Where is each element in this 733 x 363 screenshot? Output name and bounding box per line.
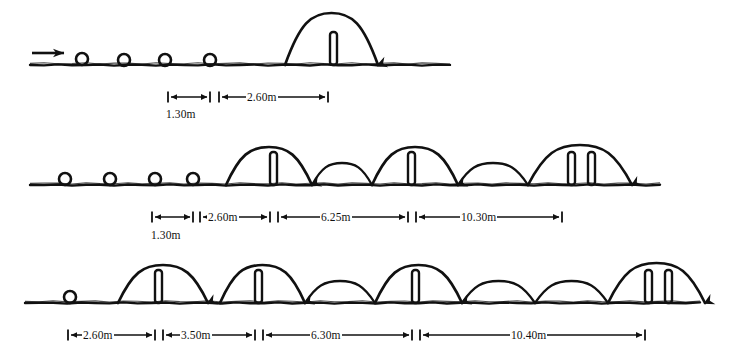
hurdle-icon: [255, 270, 262, 303]
hurdle-icon: [155, 270, 162, 303]
hurdle-icon: [412, 270, 419, 303]
hop-arc: [312, 163, 372, 185]
dimension-label: 2.60m: [207, 211, 239, 223]
double-hurdle-clearance-arc: [528, 145, 632, 185]
dimension-label: 10.30m: [460, 211, 497, 223]
footfall-circle-icon: [64, 291, 76, 303]
dimension-label: 6.25m: [320, 211, 352, 223]
ground-line: [25, 302, 700, 303]
diagram-row-1: [30, 13, 450, 66]
dimension-label: 1.30m: [165, 108, 197, 120]
dimension-label: 2.60m: [246, 91, 278, 103]
hop-arc: [535, 281, 608, 303]
diagram-row-2: [30, 145, 660, 186]
dimension-label: 1.30m: [150, 229, 182, 241]
diagram-row-3: [25, 263, 705, 304]
hurdle-icon: [330, 32, 337, 65]
hurdle-clearance-arc: [285, 13, 378, 65]
hop-arc: [462, 281, 535, 303]
ground-line: [30, 64, 450, 65]
dimension-label: 10.40m: [510, 329, 547, 341]
hurdle-icon: [568, 152, 575, 185]
hurdle-icon: [645, 270, 652, 303]
hop-arc: [305, 281, 375, 303]
hop-arc: [458, 163, 528, 185]
hurdle-icon: [588, 152, 595, 185]
dimension-label: 2.60m: [82, 329, 114, 341]
hurdle-icon: [665, 270, 672, 303]
dimension-label: 3.50m: [180, 329, 212, 341]
double-hurdle-clearance-arc: [608, 263, 705, 303]
dimension-label: 6.30m: [310, 329, 342, 341]
dimension-r1-d1: [168, 92, 210, 103]
sketch-canvas: [0, 0, 733, 363]
hurdle-training-diagram: 1.30m2.60m1.30m2.60m6.25m10.30m2.60m3.50…: [0, 0, 733, 363]
hurdle-icon: [270, 152, 277, 185]
ground-line: [30, 184, 660, 185]
dimension-r2-d1: [152, 212, 193, 223]
hurdle-icon: [408, 152, 415, 185]
